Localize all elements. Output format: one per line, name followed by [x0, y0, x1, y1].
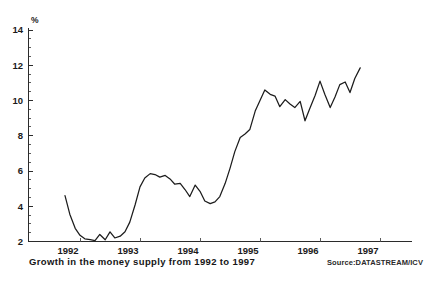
chart-source: Source:DATASTREAM/ICV	[327, 256, 423, 267]
y-tick-label: 4	[18, 201, 24, 212]
y-axis-tick-labels: 1412108642	[12, 24, 23, 247]
chart-caption: Growth in the money supply from 1992 to …	[29, 256, 255, 267]
chart-figure: 1412108642 199219931994199519961997 % Gr…	[0, 0, 433, 281]
y-tick-label: 10	[12, 95, 23, 106]
axis-group	[28, 28, 412, 242]
x-axis-tick-labels: 199219931994199519961997	[57, 245, 378, 256]
x-tick-label: 1997	[357, 245, 378, 256]
y-tick-label: 12	[12, 60, 23, 71]
y-axis-unit-label: %	[31, 15, 39, 25]
x-tick-label: 1996	[297, 245, 318, 256]
x-tick-label: 1994	[177, 245, 199, 256]
x-tick-label: 1993	[117, 245, 138, 256]
y-tick-label: 8	[18, 130, 23, 141]
caption-row: Growth in the money supply from 1992 to …	[0, 256, 433, 276]
data-series-line	[65, 68, 360, 241]
y-tick-label: 2	[18, 236, 23, 247]
y-axis-ticks	[29, 30, 34, 242]
y-tick-label: 6	[18, 165, 23, 176]
x-tick-label: 1992	[57, 245, 78, 256]
x-tick-label: 1995	[237, 245, 259, 256]
money-supply-line-chart: 1412108642 199219931994199519961997 %	[0, 0, 433, 281]
y-tick-label: 14	[12, 24, 23, 35]
